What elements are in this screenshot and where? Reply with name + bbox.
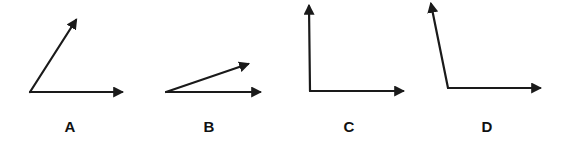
ray-arrow [431,4,448,88]
angle-figure-d: D [431,4,540,135]
ray-arrow [309,6,310,91]
angles-layer: ABCD [30,4,540,135]
angle-diagram: ABCD [0,0,565,146]
ray-arrow [30,20,76,92]
angle-figure-c: C [309,6,403,135]
angle-figure-a: A [30,20,122,135]
angle-figure-b: B [166,64,260,135]
ray-arrow [166,64,248,92]
angle-label: D [482,118,493,135]
angle-label: C [344,118,355,135]
angle-label: B [204,118,215,135]
angle-label: A [65,118,76,135]
